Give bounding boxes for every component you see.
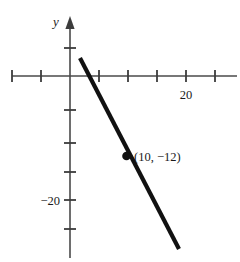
point-annotation-label: (10, −12) — [134, 150, 181, 164]
x-tick-label-20: 20 — [180, 88, 193, 102]
graph-figure: y 20 −20 (10, −12) — [0, 0, 240, 262]
coordinate-plane-svg: y 20 −20 (10, −12) — [0, 0, 240, 262]
y-axis-label: y — [51, 14, 59, 29]
y-tick-label-minus20: −20 — [40, 194, 60, 208]
marked-point-dot — [122, 152, 131, 161]
y-axis-arrow-icon — [65, 16, 74, 29]
